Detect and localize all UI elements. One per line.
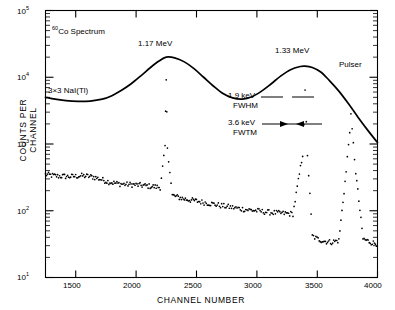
fwtm-arrowhead-right [296,121,304,127]
y-axis-title: COUNTS PER CHANNEL [18,75,38,185]
fwtm-value-label: 3.6 keV [228,118,255,127]
x-tick-label-2500: 2500 [184,281,202,290]
isotope-spectrum-label: 60Co Spectrum [52,25,105,36]
x-tick-label-3000: 3000 [244,281,262,290]
y-tick-label-1e5: 105 [17,5,29,16]
fwtm-arrowhead-left [280,121,288,127]
y-axis-minor-ticks [46,14,378,258]
y-tick-label-1e2: 102 [17,205,29,216]
x-axis-ticks [76,11,378,278]
pulser-label: Pulser [339,60,362,69]
x-tick-label-3500: 3500 [305,281,323,290]
nai-detector-curve [46,57,378,143]
y-tick-label-1e1: 101 [17,271,29,282]
x-tick-label-1500: 1500 [63,281,81,290]
fwhm-label: FWHM [233,101,258,110]
plot-frame [46,11,378,278]
fwhm-value-label: 1.9 keV [228,91,255,100]
x-axis-title: CHANNEL NUMBER [157,295,245,305]
detector-label: 3×3 NaI(Tl) [48,86,88,95]
plot-svg [0,0,395,310]
peak-1170-label: 1.17 MeV [138,39,172,48]
figure-root: 105 104 103 102 101 COUNTS PER CHANNEL 1… [0,0,395,310]
x-tick-label-4000: 4000 [364,281,382,290]
ge-detector-scatter [45,79,378,247]
fwtm-label: FWTM [233,128,257,137]
peak-1330-label: 1.33 MeV [275,46,309,55]
y-axis-major-ticks [46,11,378,278]
x-tick-label-2000: 2000 [123,281,141,290]
